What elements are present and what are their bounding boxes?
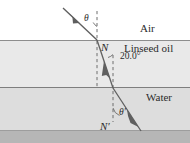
footer-band (0, 130, 190, 143)
angle-value-label: 20.0° (120, 52, 140, 62)
normal-label-n-prime: N′ (100, 121, 110, 132)
refraction-diagram: Air Linseed oil Water N N′ θ θ′ 20.0° (0, 0, 190, 143)
medium-label-water: Water (146, 92, 172, 103)
angle-label-theta: θ (84, 14, 89, 24)
normal-label-n: N (101, 42, 108, 53)
angle-label-theta-prime: θ′ (119, 108, 126, 118)
diagram-canvas (0, 0, 190, 143)
medium-label-air: Air (140, 23, 155, 34)
medium-band-air (0, 0, 190, 40)
